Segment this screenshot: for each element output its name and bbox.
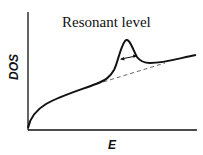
x-axis-label: E bbox=[108, 138, 117, 152]
dos-curve bbox=[28, 40, 196, 128]
diagram-title: Resonant level bbox=[62, 14, 151, 30]
width-arrow bbox=[120, 55, 137, 61]
y-axis-label: DOS bbox=[7, 54, 21, 80]
resonant-level-diagram: Resonant level E DOS bbox=[0, 0, 203, 155]
